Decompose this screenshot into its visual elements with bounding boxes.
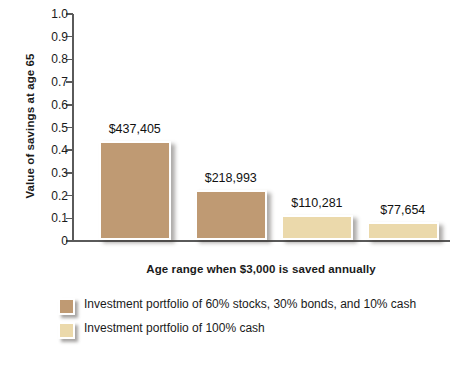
bar-rect [99,141,171,240]
y-axis-tick-label: 0.8 [32,53,68,65]
y-axis-tick-label: 0.9 [32,31,68,43]
y-axis-tick-label: 0 [32,235,68,247]
y-axis-tick-label: 0.4 [32,144,68,156]
y-axis-tick-label: 0.7 [32,76,68,88]
bar-value-label: $437,405 [109,122,161,136]
y-axis-tick-label: 0.6 [32,99,68,111]
y-axis-tick-label: 0.3 [32,167,68,179]
bar-value-label: $77,654 [380,203,425,217]
x-axis-title: Age range when $3,000 is saved annually [72,263,450,275]
legend-label: Investment portfolio of 60% stocks, 30% … [84,297,416,312]
y-axis-tick-label: 0.2 [32,190,68,202]
bar: $77,65431–39 [367,222,439,240]
legend-swatch [58,298,75,315]
bar-chart-figure: Value of savings at age 65 1.00.90.80.70… [0,0,473,369]
bar-rect [281,215,353,240]
legend-item: Investment portfolio of 100% cash [58,321,458,339]
plot-area: 1.00.90.80.70.60.50.40.30.20.10$437,4052… [72,14,450,241]
bar: $437,40521–29 [99,141,171,240]
bar-value-label: $110,281 [291,196,342,210]
legend-label: Investment portfolio of 100% cash [84,321,265,336]
bar: $110,28121–29 [281,215,353,240]
legend-swatch [58,322,75,339]
y-axis-tick-label: 0.5 [32,122,68,134]
chart-legend: Investment portfolio of 60% stocks, 30% … [58,297,458,345]
bar-rect [367,222,439,240]
bar-rect [195,190,267,240]
legend-item: Investment portfolio of 60% stocks, 30% … [58,297,458,315]
y-axis-tick-label: 1.0 [32,8,68,20]
y-axis-tick-label: 0.1 [32,212,68,224]
x-axis-line [72,240,450,242]
bar-value-label: $218,993 [205,171,257,185]
bar: $218,99331–39 [195,190,267,240]
